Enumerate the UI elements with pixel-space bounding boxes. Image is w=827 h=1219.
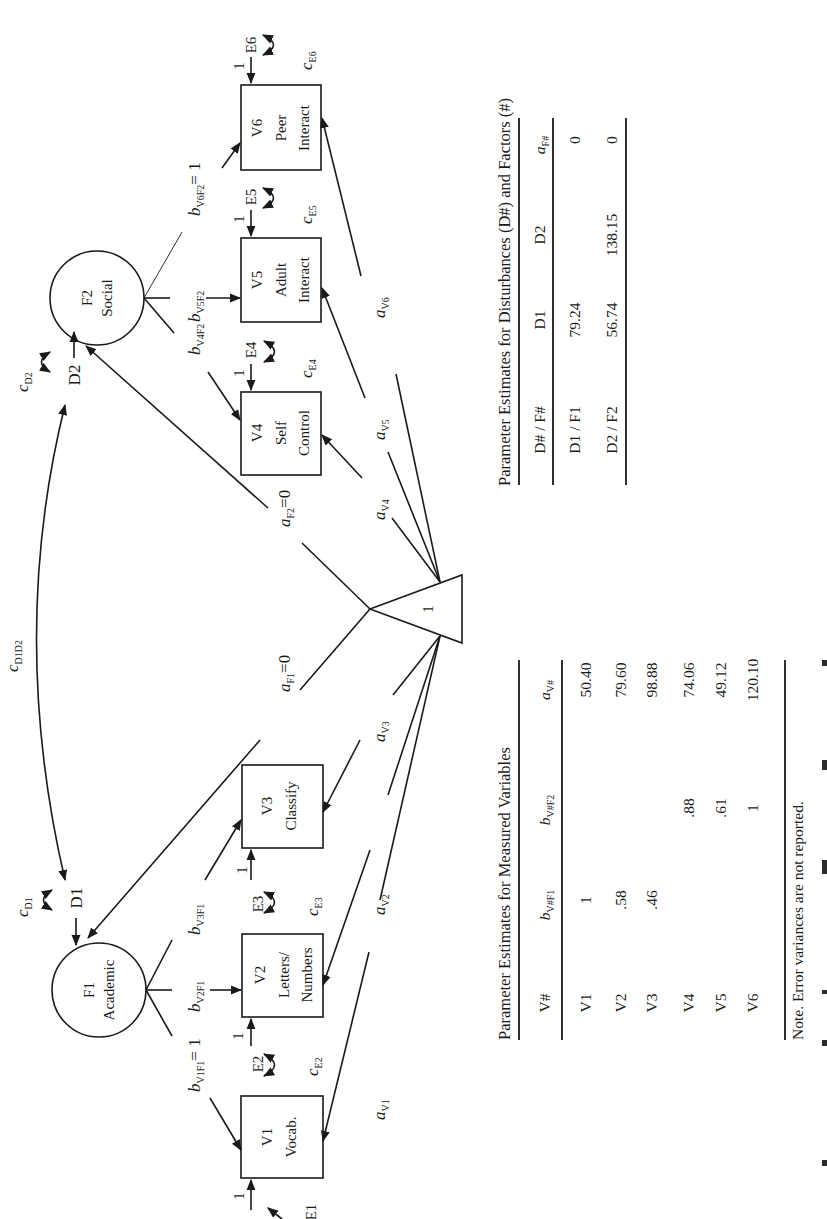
cell-af: 0 <box>603 136 620 144</box>
label-a-f2: aF2=0 <box>275 490 296 527</box>
factor-f2-name: Social <box>99 279 115 317</box>
v6-line2: Interact <box>296 104 312 151</box>
cell-b1: .58 <box>612 890 629 910</box>
cell-v: V5 <box>712 993 729 1012</box>
factor-f1-id: F1 <box>81 982 97 998</box>
error-e1: E1 1 <box>231 1180 319 1219</box>
e3-path-label: 1 <box>234 866 250 874</box>
label-a-v1: aV1 <box>370 1099 391 1120</box>
e1-path-label: 1 <box>231 1192 247 1200</box>
e5-path-label: 1 <box>231 215 247 223</box>
factor-f2-node: F2 Social <box>50 251 144 345</box>
loadings-f1 <box>146 820 241 1150</box>
factor-f1-node: F1 Academic <box>52 943 146 1037</box>
v2-line1: Letters/ <box>276 951 292 998</box>
table-row: V6 1 120.10 <box>744 658 761 1012</box>
cell-a: 79.60 <box>612 662 629 697</box>
v6-id: V6 <box>249 118 265 137</box>
cell-v: V6 <box>744 993 761 1012</box>
cell-v: V2 <box>612 994 629 1013</box>
e6-path-label: 1 <box>231 62 247 70</box>
v6-line1: Peer <box>273 115 289 142</box>
cell-b1: 1 <box>577 896 594 904</box>
table-row: V5 .61 49.12 <box>712 663 729 1013</box>
figure-page: F2 Social F1 Academic V6 Peer Interact V… <box>0 0 827 1219</box>
measured-v2-node: V2 Letters/ Numbers <box>242 934 323 1017</box>
path-diagram: F2 Social F1 Academic V6 Peer Interact V… <box>3 35 462 1219</box>
measured-v4-node: V4 Self Control <box>241 392 321 475</box>
error-e5: E5 1 <box>231 188 274 236</box>
v1-id: V1 <box>259 1128 275 1146</box>
cell-label: D1 / F1 <box>566 406 583 453</box>
table-row: V2 .58 79.60 <box>612 662 629 1012</box>
header-d2: D2 <box>531 226 548 245</box>
error-e6: E6 1 <box>231 35 274 83</box>
label-b-v5f2: bV5F2 <box>185 291 206 322</box>
v4-line2: Control <box>296 410 312 456</box>
cell-b2: .88 <box>680 798 697 818</box>
label-a-v3: aV3 <box>370 721 391 742</box>
v4-id: V4 <box>249 423 265 442</box>
error-e4: E4 1 <box>231 341 275 390</box>
header-b-vf1: bV#F1 <box>536 890 556 921</box>
label-b-v4f2: bV4F2 <box>185 324 206 355</box>
factor-f2-id: F2 <box>79 290 95 306</box>
label-c-e3: cE3 <box>303 897 324 916</box>
cell-d2: 138.15 <box>603 213 620 256</box>
error-e3: E3 1 <box>234 850 275 913</box>
table-row: V4 .88 74.06 <box>680 662 697 1012</box>
e5-label: E5 <box>243 189 259 206</box>
table-row: D2 / F2 56.74 138.15 0 <box>603 136 620 454</box>
table-row: V3 .46 98.88 <box>643 662 660 1012</box>
v5-id: V5 <box>249 271 265 289</box>
cell-a: 74.06 <box>680 662 697 697</box>
measured-v1-node: V1 Vocab. <box>241 1096 323 1178</box>
label-c-d1: cD1 <box>13 897 34 917</box>
mean-paths-factors <box>86 346 370 938</box>
header-dfnum: D# / F# <box>531 406 548 454</box>
v3-id: V3 <box>259 797 275 815</box>
cell-a: 120.10 <box>744 658 761 701</box>
e2-label: E2 <box>250 1056 266 1073</box>
cell-b2: .61 <box>712 798 729 817</box>
label-a-v2: aV2 <box>370 894 391 915</box>
table-measured-title: Parameter Estimates for Measured Variabl… <box>495 747 514 1040</box>
label-c-e6: cE6 <box>297 51 318 70</box>
header-d1: D1 <box>531 311 548 330</box>
table-row: D1 / F1 79.24 0 <box>566 136 583 454</box>
v5-line2: Interact <box>296 256 312 303</box>
constant-triangle: 1 <box>370 575 462 643</box>
d1-label: D1 <box>67 888 86 909</box>
label-c-e4: cE4 <box>297 359 318 378</box>
label-c-e5: cE5 <box>297 205 318 224</box>
disturbance-d1: D1 <box>44 888 87 945</box>
mean-paths-measured <box>322 118 440 1141</box>
v3-line1: Classify <box>283 781 299 831</box>
measured-v6-node: V6 Peer Interact <box>241 85 321 170</box>
e3-label: E3 <box>250 896 266 913</box>
v4-line1: Self <box>273 421 289 445</box>
cell-label: D2 / F2 <box>603 406 620 453</box>
label-a-v5: aV5 <box>370 419 391 440</box>
table-measured: Parameter Estimates for Measured Variabl… <box>495 658 806 1040</box>
table-row: V1 1 50.40 <box>577 662 594 1012</box>
constant-label: 1 <box>420 605 436 613</box>
label-a-f1: aF1=0 <box>275 655 296 692</box>
cell-v: V4 <box>680 993 697 1012</box>
cell-a: 49.12 <box>712 663 729 698</box>
e4-path-label: 1 <box>231 369 247 377</box>
label-b-v6f2: bV6F2= 1 <box>185 162 206 216</box>
label-b-v2f1: bV2F1 <box>185 981 206 1012</box>
cell-b1: .46 <box>643 890 660 910</box>
v1-line1: Vocab. <box>283 1117 299 1158</box>
v2-line2: Numbers <box>299 947 315 1002</box>
d2-label: D2 <box>65 365 84 386</box>
cell-a: 98.88 <box>643 662 660 697</box>
table-disturbances-title: Parameter Estimates for Disturbances (D#… <box>495 98 514 486</box>
table-note: Note. Error variances are not reported. <box>789 801 806 1040</box>
label-a-v4: aV4 <box>370 499 391 520</box>
e1-label: E1 <box>303 1204 319 1219</box>
cell-d1: 56.74 <box>603 302 620 337</box>
table-disturbances: Parameter Estimates for Disturbances (D#… <box>495 98 626 486</box>
cell-d1: 79.24 <box>566 302 583 337</box>
